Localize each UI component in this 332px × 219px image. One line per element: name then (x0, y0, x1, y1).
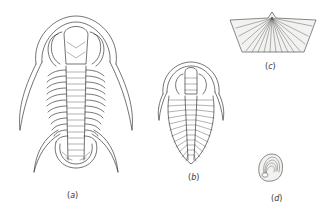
trilobite-b-illustration (155, 60, 227, 168)
label-paren-close: ) (75, 191, 78, 200)
panel-d-label: (d) (271, 194, 282, 203)
panel-d-shell (256, 152, 284, 184)
trilobite-a-illustration (14, 12, 138, 174)
shell-d-illustration (256, 152, 284, 184)
shell-c-illustration (228, 10, 318, 56)
label-paren-close: ) (196, 173, 199, 182)
panel-a-trilobite (14, 12, 138, 174)
panel-c-label: (c) (265, 62, 276, 71)
panel-b-label: (b) (188, 173, 199, 182)
label-paren-close: ) (279, 194, 282, 203)
panel-b-trilobite (155, 60, 227, 168)
label-paren-close: ) (273, 62, 276, 71)
panel-c-shell (228, 10, 318, 56)
panel-a-label: (a) (67, 191, 78, 200)
